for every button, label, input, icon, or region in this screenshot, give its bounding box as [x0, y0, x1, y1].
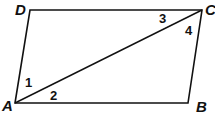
- vertex-label-d: D: [15, 1, 26, 18]
- angle-label-3: 3: [159, 11, 166, 26]
- angle-label-2: 2: [50, 88, 57, 103]
- angle-label-4: 4: [185, 23, 193, 38]
- angle-label-1: 1: [25, 75, 32, 90]
- diagonal-ac: [15, 10, 202, 103]
- vertex-label-a: A: [1, 97, 13, 114]
- vertex-label-b: B: [196, 98, 207, 115]
- vertex-label-c: C: [205, 1, 215, 18]
- parallelogram-diagram: D C A B 1 2 3 4: [0, 0, 215, 115]
